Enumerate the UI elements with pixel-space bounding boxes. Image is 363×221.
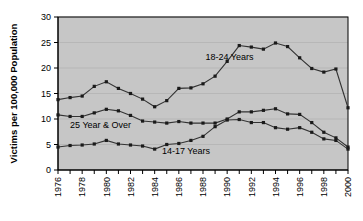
data-point-marker xyxy=(346,147,349,150)
data-point-marker xyxy=(286,112,289,115)
data-point-marker xyxy=(189,121,192,124)
data-point-marker xyxy=(250,121,253,124)
data-point-marker xyxy=(298,113,301,116)
data-point-marker xyxy=(153,105,156,108)
data-point-marker xyxy=(310,121,313,124)
data-point-marker xyxy=(56,98,59,101)
data-point-marker xyxy=(56,113,59,116)
data-point-marker xyxy=(68,115,71,118)
data-point-marker xyxy=(322,70,325,73)
y-tick-label-20: 20 xyxy=(41,63,51,73)
line-chart: 051015202530 197619781980198219841986198… xyxy=(0,0,363,221)
x-tick-label-1988: 1988 xyxy=(198,177,208,197)
y-tick-label-25: 25 xyxy=(41,38,51,48)
data-point-marker xyxy=(81,94,84,97)
y-tick-label-30: 30 xyxy=(41,12,51,22)
data-point-marker xyxy=(129,92,132,95)
data-point-marker xyxy=(238,118,241,121)
data-point-marker xyxy=(129,143,132,146)
x-tick-label-1976: 1976 xyxy=(53,177,63,197)
data-point-marker xyxy=(105,108,108,111)
data-point-marker xyxy=(68,144,71,147)
data-point-marker xyxy=(189,139,192,142)
data-point-marker xyxy=(93,142,96,145)
x-tick-label-1998: 1998 xyxy=(319,177,329,197)
series-label-0: 18-24 Years xyxy=(205,52,254,62)
data-point-marker xyxy=(201,82,204,85)
data-point-marker xyxy=(262,48,265,51)
data-point-marker xyxy=(238,110,241,113)
x-tick-label-1992: 1992 xyxy=(247,177,257,197)
data-point-marker xyxy=(117,87,120,90)
x-tick-label-1982: 1982 xyxy=(126,177,136,197)
x-tick-label-2000: 2000 xyxy=(343,177,353,197)
data-point-marker xyxy=(286,45,289,48)
data-point-marker xyxy=(56,145,59,148)
y-tick-label-10: 10 xyxy=(41,114,51,124)
y-tick-label-15: 15 xyxy=(41,89,51,99)
series-label-1: 25 Year & Over xyxy=(70,120,131,130)
data-point-marker xyxy=(81,143,84,146)
data-point-marker xyxy=(105,139,108,142)
data-point-marker xyxy=(93,85,96,88)
x-tick-label-1986: 1986 xyxy=(174,177,184,197)
y-axis-ticks: 051015202530 xyxy=(41,12,58,175)
data-point-marker xyxy=(310,131,313,134)
x-tick-label-1978: 1978 xyxy=(77,177,87,197)
x-tick-label-1980: 1980 xyxy=(102,177,112,197)
y-tick-label-0: 0 xyxy=(46,165,51,175)
data-point-marker xyxy=(177,87,180,90)
data-point-marker xyxy=(141,144,144,147)
data-point-marker xyxy=(250,110,253,113)
data-point-marker xyxy=(262,121,265,124)
data-point-marker xyxy=(177,142,180,145)
data-point-marker xyxy=(201,135,204,138)
x-tick-label-1994: 1994 xyxy=(271,177,281,197)
x-tick-label-1996: 1996 xyxy=(295,177,305,197)
data-point-marker xyxy=(274,126,277,129)
data-point-marker xyxy=(165,121,168,124)
data-point-marker xyxy=(274,41,277,44)
data-point-marker xyxy=(213,125,216,128)
data-point-marker xyxy=(153,120,156,123)
chart-container: 051015202530 197619781980198219841986198… xyxy=(0,0,363,221)
data-point-marker xyxy=(322,137,325,140)
data-point-marker xyxy=(298,56,301,59)
data-point-marker xyxy=(201,121,204,124)
data-point-marker xyxy=(274,107,277,110)
data-point-marker xyxy=(117,109,120,112)
data-point-marker xyxy=(189,86,192,89)
data-point-marker xyxy=(334,139,337,142)
data-point-marker xyxy=(346,106,349,109)
x-axis-ticks: 1976197819801982198419861988199019921994… xyxy=(53,170,353,197)
data-point-marker xyxy=(213,121,216,124)
x-tick-label-1990: 1990 xyxy=(222,177,232,197)
data-point-marker xyxy=(286,128,289,131)
data-point-marker xyxy=(141,119,144,122)
x-tick-label-1984: 1984 xyxy=(150,177,160,197)
data-point-marker xyxy=(129,114,132,117)
data-point-marker xyxy=(141,98,144,101)
data-point-marker xyxy=(310,67,313,70)
data-point-marker xyxy=(213,75,216,78)
data-point-marker xyxy=(226,118,229,121)
y-tick-label-5: 5 xyxy=(46,140,51,150)
data-point-marker xyxy=(93,111,96,114)
data-point-marker xyxy=(105,80,108,83)
data-point-marker xyxy=(165,99,168,102)
data-point-marker xyxy=(334,67,337,70)
data-point-marker xyxy=(117,142,120,145)
series-label-2: 14-17 Years xyxy=(162,146,211,156)
data-point-marker xyxy=(153,147,156,150)
y-axis-title: Victims per 100,000 Population xyxy=(8,23,19,163)
data-point-marker xyxy=(262,109,265,112)
data-point-marker xyxy=(298,126,301,129)
data-point-marker xyxy=(68,96,71,99)
data-point-marker xyxy=(250,45,253,48)
data-point-marker xyxy=(238,44,241,47)
data-point-marker xyxy=(177,120,180,123)
data-point-marker xyxy=(322,131,325,134)
data-point-marker xyxy=(81,115,84,118)
